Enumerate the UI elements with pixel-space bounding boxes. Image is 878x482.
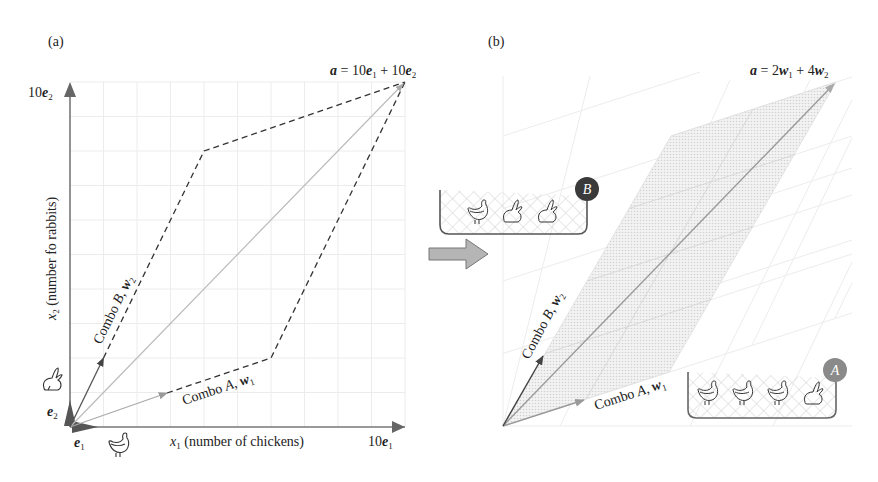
y-axis-arrowhead-icon: [64, 82, 76, 97]
y-axis-title: x2 (number fo rabbits): [44, 197, 61, 321]
basket-a: A: [688, 358, 847, 418]
panel-b-equation: a = 2w1 + 4w2: [750, 63, 829, 80]
combo-a-dashed-path: [167, 82, 405, 393]
panel-a: (a): [28, 34, 416, 457]
panel-a-equation: a = 10e1 + 10e2: [330, 63, 416, 80]
basket-a-badge-label: A: [830, 363, 840, 378]
figure-canvas: (a): [0, 0, 878, 482]
vector-a-b: [503, 84, 834, 426]
x-max-label: 10e1: [368, 434, 393, 451]
panel-b-label: (b): [488, 34, 505, 50]
x-axis-title: x1 (number of chickens): [169, 434, 304, 451]
panel-a-label: (a): [48, 34, 64, 50]
e1-arrow-icon: [72, 421, 98, 433]
e1-label: e1: [74, 435, 85, 452]
basket-b-badge-label: B: [583, 182, 592, 197]
transition-arrow-icon: [429, 239, 488, 269]
chicken-icon: [109, 433, 129, 457]
e2-label: e2: [47, 404, 58, 421]
y-max-label: 10e2: [28, 85, 53, 102]
x-axis-arrowhead-icon: [392, 421, 405, 433]
rabbit-icon: [43, 368, 62, 390]
panel-b: (b): [440, 34, 852, 426]
